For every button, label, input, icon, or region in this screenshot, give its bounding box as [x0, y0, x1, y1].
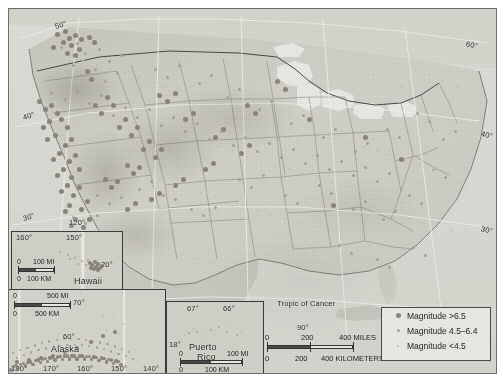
- epicenter-marker: [444, 176, 447, 179]
- epicenter-marker: [240, 331, 242, 333]
- epicenter-marker: [166, 86, 168, 88]
- epicenter-marker: [109, 185, 114, 190]
- alaska-inset[interactable]: 70° 60° Alaska 180°170°160°150°140° 0 50…: [8, 289, 166, 374]
- epicenter-marker: [147, 139, 152, 144]
- epicenter-marker: [124, 106, 127, 109]
- epicenter-marker: [116, 72, 119, 75]
- epicenter-marker: [158, 178, 160, 180]
- epicenter-marker: [172, 184, 174, 186]
- legend-item-2[interactable]: Magnitude <4.5: [382, 338, 490, 353]
- epicenter-marker: [149, 197, 154, 202]
- alaska-scale-km-end: 500 KM: [35, 310, 59, 317]
- epicenter-marker: [120, 54, 123, 57]
- alaska-scale-bar: 0 500 MI 0 500 KM: [13, 292, 93, 320]
- epicenter-marker: [85, 199, 90, 204]
- epicenter-marker: [60, 46, 63, 49]
- main-scale-km-zero: 0: [265, 354, 269, 363]
- epicenter-marker: [220, 130, 223, 133]
- epicenter-marker: [101, 334, 104, 337]
- legend-dot-md-icon: [389, 329, 407, 332]
- epicenter-marker: [130, 170, 132, 172]
- epicenter-marker: [104, 80, 107, 83]
- puerto-rico-inset[interactable]: 67° 66° 18° Puerto Rico 0 100 MI 0 100 K…: [166, 301, 264, 374]
- epicenter-marker: [386, 80, 388, 82]
- epicenter-marker: [59, 189, 64, 194]
- epicenter-marker: [134, 120, 136, 122]
- epicenter-marker: [65, 51, 70, 56]
- epicenter-marker: [94, 311, 96, 313]
- epicenter-marker: [278, 120, 280, 122]
- epicenter-marker: [408, 218, 410, 220]
- epicenter-marker: [87, 35, 92, 40]
- epicenter-marker: [200, 192, 202, 194]
- epicenter-marker: [64, 98, 67, 101]
- hawaii-scale-km-zero: 0: [17, 275, 21, 282]
- hawaii-lon-150: 150°: [66, 233, 82, 242]
- epicenter-marker: [262, 174, 265, 177]
- epicenter-marker: [275, 79, 280, 84]
- epicenter-marker: [45, 137, 50, 142]
- epicenter-marker: [144, 174, 146, 176]
- pr-scale-miles-zero: 0: [179, 350, 183, 357]
- main-scale-miles-mid: 200: [301, 333, 314, 342]
- epicenter-marker: [79, 37, 84, 42]
- epicenter-marker: [408, 194, 411, 197]
- epicenter-marker: [450, 230, 452, 232]
- epicenter-marker: [246, 156, 248, 158]
- main-map[interactable]: 50°60°40°40°30°30°120°90°80° Tropic of C…: [8, 8, 497, 374]
- epicenter-marker: [210, 74, 213, 77]
- epicenter-marker: [100, 94, 103, 97]
- epicenter-marker: [238, 178, 241, 181]
- epicenter-marker: [53, 133, 58, 138]
- epicenter-marker: [93, 103, 98, 108]
- epicenter-marker: [63, 29, 68, 34]
- epicenter-marker: [92, 40, 97, 45]
- epicenter-marker: [376, 258, 379, 261]
- epicenter-marker: [386, 128, 389, 131]
- epicenter-marker: [334, 128, 337, 131]
- epicenter-marker: [208, 98, 210, 100]
- epicenter-marker: [136, 116, 139, 119]
- epicenter-marker: [168, 248, 170, 250]
- epicenter-marker: [204, 142, 206, 144]
- pr-scale-miles-end: 100 MI: [227, 350, 248, 357]
- epicenter-marker: [137, 165, 142, 170]
- epicenter-marker: [283, 87, 288, 92]
- epicenter-marker: [192, 328, 194, 330]
- hawaii-scale-km-end: 100 KM: [27, 275, 51, 282]
- magnitude-legend[interactable]: Magnitude >6.5Magnitude 4.5–6.4Magnitude…: [381, 307, 491, 361]
- epicenter-marker: [394, 210, 397, 213]
- epicenter-marker: [69, 175, 74, 180]
- epicenter-marker: [49, 103, 54, 108]
- epicenter-marker: [79, 207, 84, 212]
- epicenter-marker: [202, 335, 204, 337]
- epicenter-marker: [316, 154, 319, 157]
- epicenter-marker: [390, 154, 392, 156]
- alaska-lat-60: 60°: [63, 332, 75, 341]
- epicenter-marker: [174, 198, 177, 201]
- pr-scale-bar: 0 100 MI 0 100 KM: [179, 350, 257, 374]
- epicenter-marker: [368, 244, 370, 246]
- epicenter-marker: [176, 134, 178, 136]
- epicenter-marker: [80, 74, 83, 77]
- epicenter-marker: [159, 147, 164, 152]
- epicenter-marker: [140, 240, 142, 242]
- epicenter-marker: [196, 122, 199, 125]
- legend-item-1[interactable]: Magnitude 4.5–6.4: [382, 323, 490, 338]
- epicenter-marker: [110, 358, 113, 361]
- epicenter-marker: [154, 244, 156, 246]
- main-scale-km-end: 400 KILOMETERS: [321, 354, 384, 363]
- epicenter-marker: [218, 146, 220, 148]
- legend-item-0[interactable]: Magnitude >6.5: [382, 308, 490, 323]
- epicenter-marker: [245, 103, 250, 108]
- epicenter-marker: [77, 167, 82, 172]
- hawaii-inset[interactable]: 160° 150° 20° Hawaii 0 100 MI 0 100 KM: [11, 231, 123, 291]
- main-scale-miles-zero: 0: [265, 333, 269, 342]
- hawaii-lat-20: 20°: [101, 260, 113, 269]
- epicenter-marker: [115, 179, 120, 184]
- epicenter-marker: [110, 68, 112, 70]
- epicenter-marker: [53, 358, 56, 361]
- graticule-label-7: 90°: [297, 323, 309, 332]
- epicenter-marker: [110, 350, 112, 352]
- epicenter-marker: [65, 125, 70, 130]
